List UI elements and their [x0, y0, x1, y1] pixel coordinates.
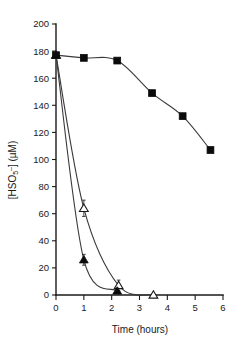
marker-filled-square — [149, 90, 156, 97]
marker-filled-square — [114, 57, 121, 64]
y-tick-label: 180 — [33, 46, 49, 57]
data-series-group — [52, 51, 214, 298]
marker-filled-triangle — [79, 256, 88, 263]
svg-text:[HSO5–] (µM): [HSO5–] (µM) — [7, 141, 19, 200]
y-axis-ticks: 020406080100120140160180200 — [33, 18, 56, 300]
y-tick-label: 80 — [38, 181, 49, 192]
y-tick-label: 200 — [33, 18, 49, 29]
y-tick-label: 120 — [33, 127, 49, 138]
y-tick-label: 0 — [44, 289, 49, 300]
marker-open-triangle — [79, 204, 88, 211]
marker-open-triangle — [114, 281, 123, 288]
chart-plot-area: 020406080100120140160180200 0123456 Time… — [0, 0, 233, 344]
x-tick-label: 0 — [53, 302, 58, 313]
y-axis-title: [HSO5–] (µM) — [7, 141, 19, 200]
series-filled-triangle-series — [52, 51, 122, 294]
x-tick-label: 5 — [193, 302, 198, 313]
x-tick-label: 2 — [109, 302, 114, 313]
marker-filled-square — [179, 113, 186, 120]
y-tick-label: 100 — [33, 154, 49, 165]
marker-filled-square — [80, 54, 87, 61]
series-curve-filled-square-series — [56, 55, 210, 150]
y-tick-label: 140 — [33, 100, 49, 111]
y-tick-label: 40 — [38, 235, 49, 246]
marker-filled-square — [207, 147, 214, 154]
x-axis-ticks: 0123456 — [53, 295, 225, 313]
x-tick-label: 4 — [165, 302, 170, 313]
y-tick-label: 60 — [38, 208, 49, 219]
x-axis-title: Time (hours) — [112, 324, 168, 335]
x-tick-label: 1 — [81, 302, 86, 313]
x-tick-label: 6 — [220, 302, 225, 313]
series-filled-square-series — [53, 52, 214, 154]
chart-figure: 020406080100120140160180200 0123456 Time… — [0, 0, 233, 344]
series-open-triangle-series — [52, 51, 158, 298]
y-tick-label: 160 — [33, 73, 49, 84]
x-tick-label: 3 — [137, 302, 142, 313]
series-curve-filled-triangle-series — [56, 55, 117, 291]
y-tick-label: 20 — [38, 262, 49, 273]
